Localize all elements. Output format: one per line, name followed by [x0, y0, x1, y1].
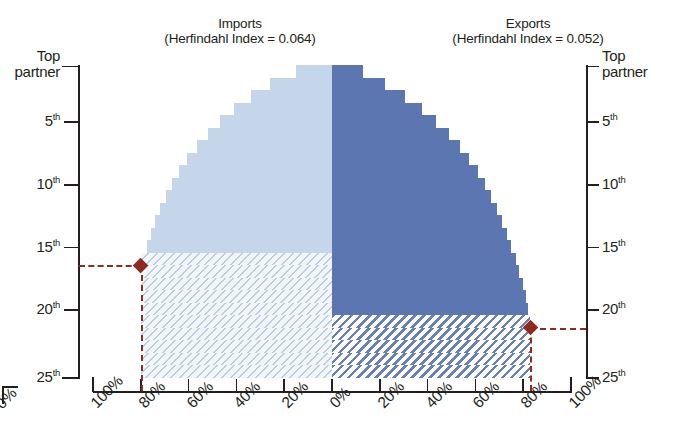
bar-imports-rank-1	[296, 65, 332, 78]
y-axis-left-label-15: 15th	[0, 237, 60, 255]
bar-exports-rank-21	[332, 315, 530, 328]
bar-imports-rank-13	[155, 215, 332, 228]
y-axis-right-tick-5	[588, 121, 599, 123]
chart-title-exports: Exports (Herfindahl Index = 0.052)	[398, 16, 658, 46]
bar-imports-rank-24	[141, 353, 332, 366]
bar-exports-rank-20	[332, 303, 528, 316]
bar-imports-rank-12	[160, 203, 332, 216]
bar-imports-rank-7	[197, 140, 332, 153]
bar-exports-rank-4	[332, 103, 422, 116]
bar-exports-rank-24	[332, 353, 530, 366]
bar-exports-rank-13	[332, 215, 502, 228]
bar-exports-rank-10	[332, 178, 485, 191]
y-axis-left-label-25: 25th	[0, 367, 60, 385]
imports-annotation-leader-horizontal	[79, 265, 141, 267]
bar-exports-rank-1	[332, 65, 363, 78]
bar-exports-rank-2	[332, 78, 385, 91]
bar-exports-rank-14	[332, 228, 507, 241]
bar-exports-rank-22	[332, 328, 530, 341]
y-axis-right-label-10: 10th	[602, 174, 625, 192]
bar-exports-rank-25	[332, 365, 530, 378]
y-axis-right-label-15: 15th	[602, 237, 625, 255]
bar-imports-rank-11	[166, 190, 332, 203]
x-axis-tick-4	[283, 379, 285, 392]
bar-exports-rank-11	[332, 190, 491, 203]
bar-exports-rank-17	[332, 265, 519, 278]
bar-exports-rank-9	[332, 165, 478, 178]
imports-annotation-leader-vertical	[141, 265, 143, 391]
y-axis-right-label-5: 5th	[602, 111, 617, 129]
bar-exports-rank-3	[332, 90, 405, 103]
x-axis-tick-6	[379, 379, 381, 392]
bar-imports-rank-4	[234, 103, 332, 116]
y-axis-left-label-20: 20th	[0, 299, 60, 317]
bar-exports-rank-8	[332, 153, 469, 166]
bar-exports-rank-6	[332, 128, 449, 141]
y-axis-left-line	[78, 65, 80, 379]
bar-imports-rank-25	[141, 365, 332, 378]
bar-imports-rank-15	[147, 240, 332, 253]
bar-imports-rank-22	[141, 328, 332, 341]
y-axis-right-label-1: Toppartner	[602, 48, 647, 80]
y-axis-right-tick-1	[588, 66, 599, 68]
chart-title-imports: Imports (Herfindahl Index = 0.064)	[110, 16, 370, 46]
bar-exports-rank-19	[332, 290, 526, 303]
bar-imports-rank-17	[141, 265, 332, 278]
bar-imports-rank-19	[141, 290, 332, 303]
y-axis-right-tick-20	[588, 309, 599, 311]
chart-canvas: Imports (Herfindahl Index = 0.064) Expor…	[0, 0, 680, 444]
bar-imports-rank-20	[141, 303, 332, 316]
bar-imports-rank-16	[141, 253, 332, 266]
bar-imports-rank-9	[179, 165, 332, 178]
x-axis-tick-7	[427, 379, 429, 392]
y-axis-right-label-20: 20th	[602, 299, 625, 317]
plot-area	[93, 65, 571, 378]
bar-imports-rank-21	[141, 315, 332, 328]
x-axis-tick-10	[570, 377, 572, 392]
y-axis-right-label-25: 25th	[602, 367, 625, 385]
imports-series-area	[93, 65, 332, 378]
bar-imports-rank-18	[141, 278, 332, 291]
bar-exports-rank-18	[332, 278, 523, 291]
bar-exports-rank-23	[332, 340, 530, 353]
y-axis-right-tick-15	[588, 247, 599, 249]
x-axis-tick-9	[522, 379, 524, 392]
bar-exports-rank-5	[332, 115, 436, 128]
exports-annotation-leader-horizontal	[530, 328, 586, 330]
bar-imports-rank-23	[141, 340, 332, 353]
y-axis-left-label-10: 10th	[0, 174, 60, 192]
y-axis-left-tick-5	[64, 121, 78, 123]
y-axis-left-label-1: Toppartner	[0, 48, 60, 80]
bar-imports-rank-2	[270, 78, 332, 91]
x-axis-tick-5	[331, 379, 333, 392]
bar-exports-rank-7	[332, 140, 460, 153]
bar-imports-rank-5	[220, 115, 332, 128]
x-axis-tick-0	[92, 377, 94, 392]
exports-series-area	[332, 65, 571, 378]
y-axis-left-label-5: 5th	[0, 111, 60, 129]
bar-imports-rank-8	[187, 153, 332, 166]
y-axis-left-tick-25	[62, 377, 78, 379]
bar-imports-rank-10	[172, 178, 332, 191]
bar-exports-rank-15	[332, 240, 511, 253]
exports-annotation-leader-vertical	[530, 328, 532, 391]
y-axis-left-tick-15	[64, 247, 78, 249]
y-axis-left-tick-10	[64, 184, 78, 186]
y-axis-left-tick-1	[62, 66, 78, 68]
cropped-axis-artifact: 0%	[0, 386, 20, 420]
bar-exports-rank-12	[332, 203, 497, 216]
y-axis-left-tick-20	[64, 309, 78, 311]
bar-imports-rank-3	[251, 90, 332, 103]
y-axis-right-line	[586, 65, 588, 379]
y-axis-right-tick-10	[588, 184, 599, 186]
bar-imports-rank-14	[151, 228, 332, 241]
bar-exports-rank-16	[332, 253, 516, 266]
bar-imports-rank-6	[208, 128, 332, 141]
x-axis-tick-2	[188, 379, 190, 392]
